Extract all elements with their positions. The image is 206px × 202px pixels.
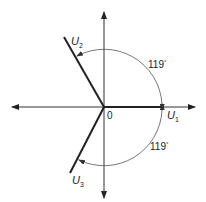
arc-u1-u2 (77, 49, 162, 104)
u1-label: U1 (167, 109, 179, 123)
u2-label: U2 (71, 35, 83, 49)
u3-label: U3 (72, 174, 84, 188)
angle-label-upper: 119° (148, 59, 167, 70)
phasor-diagram: 0 U1 U2 U3 119° 119° (0, 0, 206, 202)
phasor-diagram-svg: 0 U1 U2 U3 119° 119° (0, 0, 206, 202)
vector-u2 (64, 37, 104, 107)
origin-label: 0 (107, 110, 113, 121)
angle-label-lower: 119° (150, 141, 169, 152)
arc-u1-u3 (79, 110, 162, 166)
